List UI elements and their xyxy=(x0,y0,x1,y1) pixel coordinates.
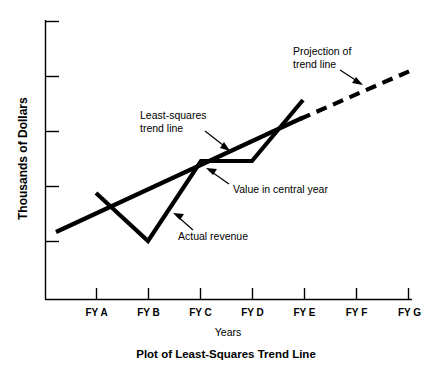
annotation-actual-revenue: Actual revenue xyxy=(173,213,248,242)
annotation-value-central-year-line-1: Value in central year xyxy=(233,183,328,195)
x-tick-label-fy-d: FY D xyxy=(241,307,264,318)
annotation-least-squares-line-2: trend line xyxy=(140,122,183,134)
y-axis xyxy=(46,20,60,300)
annotation-projection-line-2: trend line xyxy=(293,58,336,70)
x-axis xyxy=(45,288,412,300)
annotation-projection-of-trend-line: Projection of trend line xyxy=(293,45,363,85)
series-actual-revenue xyxy=(96,100,303,241)
x-tick-label-fy-e: FY E xyxy=(293,307,315,318)
annotation-value-in-central-year: Value in central year xyxy=(206,168,328,195)
x-tick-label-fy-b: FY B xyxy=(137,307,160,318)
annotation-least-squares-line-1: Least-squares xyxy=(140,109,207,121)
annotation-actual-revenue-arrowhead xyxy=(173,213,184,220)
annotation-projection-line-1: Projection of xyxy=(293,45,351,57)
annotation-actual-revenue-line-1: Actual revenue xyxy=(178,230,248,242)
y-axis-title: Thousands of Dollars xyxy=(16,97,30,220)
x-tick-label-fy-g: FY G xyxy=(398,307,421,318)
x-tick-label-fy-a: FY A xyxy=(85,307,107,318)
annotation-least-squares-trend-line: Least-squares trend line xyxy=(140,109,230,151)
x-tick-label-fy-c: FY C xyxy=(189,307,212,318)
x-axis-title: Years xyxy=(215,326,241,338)
x-tick-label-fy-f: FY F xyxy=(346,307,367,318)
chart-page: Thousands of Dollars FY A FY B FY C FY D… xyxy=(0,0,439,370)
least-squares-trend-chart: Thousands of Dollars FY A FY B FY C FY D… xyxy=(0,0,439,370)
chart-title: Plot of Least-Squares Trend Line xyxy=(136,348,316,360)
